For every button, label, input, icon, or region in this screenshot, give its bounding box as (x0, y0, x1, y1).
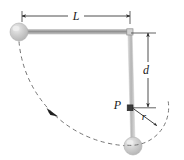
radius-r-group: r (132, 108, 157, 126)
point-P-marker (127, 105, 133, 111)
label-d: d (143, 63, 150, 77)
swing-arc-group (19, 42, 124, 146)
label-r: r (142, 110, 147, 122)
sphere-left (10, 23, 28, 41)
swing-arc-direction-arrow (47, 108, 59, 116)
rod-horizontal (19, 30, 130, 34)
swing-arc-dashed (19, 42, 124, 146)
rod-horizontal-group (19, 30, 130, 34)
sphere-bottom (124, 137, 142, 155)
figure-canvas: L (0, 0, 184, 160)
physics-figure: L (0, 0, 184, 160)
label-P: P (113, 98, 122, 112)
sphere-bottom-highlight (127, 140, 134, 145)
sphere-left-group (10, 23, 28, 41)
pivot-marker (127, 29, 133, 35)
pivot-group (127, 29, 133, 35)
sphere-left-highlight (13, 26, 20, 31)
label-L: L (72, 9, 80, 23)
rod-vertical (128, 32, 135, 146)
dimension-d-group: d (131, 33, 156, 108)
dimension-L-group: L (22, 9, 130, 24)
rod-vertical-group (128, 32, 135, 146)
sphere-bottom-group (124, 137, 142, 155)
